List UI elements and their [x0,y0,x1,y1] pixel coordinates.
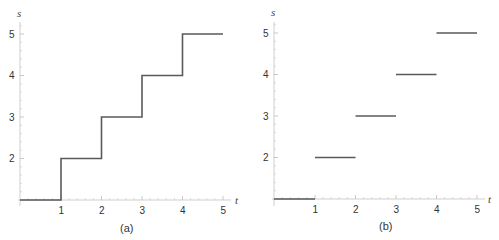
y-major-ticks [274,33,278,158]
chart-caption: (b) [379,220,392,232]
x-tick-label: 1 [59,205,65,216]
y-tick-label: 2 [263,152,269,163]
figure: 2 3 4 5 1 2 3 4 5 s t (a) [0,0,499,240]
y-tick-label: 5 [263,28,269,39]
x-axis-label: t [235,194,239,206]
x-tick-label: 5 [475,204,481,215]
chart-caption: (a) [120,222,133,234]
y-tick-label: 2 [9,153,15,164]
x-tick-label: 4 [180,205,186,216]
x-tick-label: 3 [394,204,400,215]
y-minor-ticks [20,26,22,192]
y-major-ticks [20,34,24,159]
y-tick-label: 5 [9,29,15,40]
y-tick-label: 3 [263,111,269,122]
y-tick-label: 3 [9,112,15,123]
x-tick-label: 3 [140,205,146,216]
chart-b: 2 3 4 5 1 2 3 4 5 s t (b) [263,6,492,232]
x-tick-label: 2 [99,205,105,216]
x-tick-label: 1 [313,204,319,215]
y-axis-label: s [271,6,275,18]
step-line [20,34,223,200]
x-tick-label: 4 [434,204,440,215]
x-axis-label: t [488,193,492,205]
piecewise-segments [274,33,477,199]
y-axis-label: s [17,7,21,19]
x-tick-label: 2 [353,204,359,215]
x-tick-label: 5 [221,205,227,216]
y-minor-ticks [274,25,276,191]
y-tick-label: 4 [263,69,269,80]
y-tick-label: 4 [9,70,15,81]
chart-a: 2 3 4 5 1 2 3 4 5 s t (a) [9,7,239,234]
